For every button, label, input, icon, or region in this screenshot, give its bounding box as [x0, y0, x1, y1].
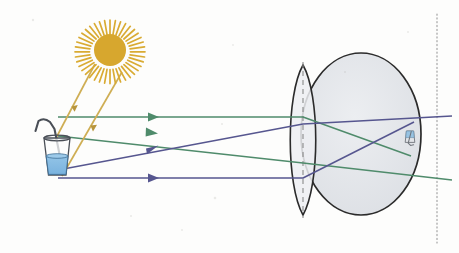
sun-disc-icon	[94, 34, 126, 66]
glass-of-water-with-straw	[36, 119, 71, 175]
water-fill	[46, 156, 68, 174]
eyeball	[301, 53, 421, 215]
water-surface	[46, 154, 68, 159]
diagram-canvas	[0, 0, 459, 253]
sun	[75, 20, 145, 84]
optics-ray-diagram	[0, 0, 459, 253]
